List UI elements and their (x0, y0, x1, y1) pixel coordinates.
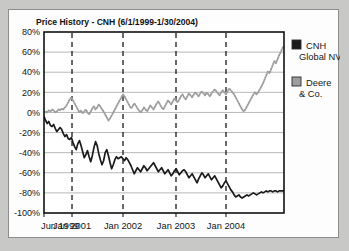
legend-label-1-line2: Global NV (299, 52, 340, 62)
chart-legend: CNHGlobal NVDeere& Co. (292, 40, 340, 99)
y-axis-tick-label: -60% (19, 168, 40, 178)
y-axis-tick-label: 20% (22, 88, 40, 98)
y-axis-tick-label: -80% (19, 188, 40, 198)
legend-swatch-1 (292, 40, 301, 49)
chart-title: Price History - CNH (6/1/1999-1/30/2004) (36, 17, 198, 27)
x-axis-tick-label: Jan 2001 (53, 221, 91, 231)
legend-label-2-line1: Deere (306, 78, 331, 88)
plot-background (44, 32, 284, 213)
legend-swatch-2 (292, 77, 301, 86)
chart-card: Price History - CNH (6/1/1999-1/30/2004)… (8, 9, 339, 238)
price-history-chart: Price History - CNH (6/1/1999-1/30/2004)… (9, 10, 340, 239)
y-axis-tick-label: -20% (19, 128, 40, 138)
y-axis-labels: 80%60%40%20%0%-20%-40%-60%-80%-100% (14, 27, 40, 218)
screenshot-root: Price History - CNH (6/1/1999-1/30/2004)… (0, 0, 349, 251)
chart-svg: Price History - CNH (6/1/1999-1/30/2004)… (9, 10, 340, 239)
y-axis-tick-label: 40% (22, 67, 40, 77)
x-axis-tick-label: Jan 2004 (207, 221, 245, 231)
y-axis-tick-label: -40% (19, 148, 40, 158)
legend-label-1-line1: CNH (306, 41, 326, 51)
y-axis-tick-label: 0% (27, 108, 40, 118)
x-axis-tick-label: Jan 2002 (104, 221, 142, 231)
y-axis-tick-label: 60% (22, 47, 40, 57)
y-axis-tick-label: 80% (22, 27, 40, 37)
x-axis-tick-label: Jan 2003 (157, 221, 195, 231)
x-axis-labels: Jun 1999Jan 2001Jan 2002Jan 2003Jan 2004 (41, 221, 245, 231)
legend-label-2-line2: & Co. (299, 89, 322, 99)
y-axis-tick-label: -100% (14, 208, 40, 218)
